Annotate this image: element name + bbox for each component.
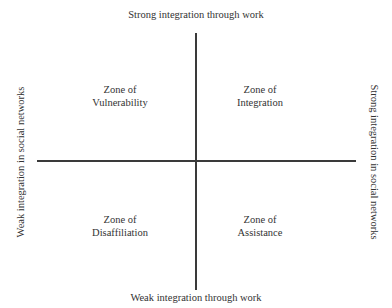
- horizontal-axis-line: [37, 160, 356, 162]
- zone-name: Vulnerability: [60, 96, 180, 109]
- zone-name: Assistance: [200, 226, 320, 239]
- quadrant-zone-vulnerability: Zone of Vulnerability: [60, 83, 180, 109]
- zone-name: Disaffiliation: [60, 226, 180, 239]
- zone-prefix: Zone of: [200, 83, 320, 96]
- zone-prefix: Zone of: [60, 83, 180, 96]
- zone-prefix: Zone of: [60, 213, 180, 226]
- zone-name: Integration: [200, 96, 320, 109]
- axis-label-left: Weak integration in social networks: [15, 87, 26, 238]
- axis-label-top: Strong integration through work: [0, 9, 392, 20]
- zone-prefix: Zone of: [200, 213, 320, 226]
- axis-label-bottom: Weak integration through work: [0, 292, 392, 303]
- axis-label-right: Strong integration in social networks: [369, 84, 380, 239]
- quadrant-zone-integration: Zone of Integration: [200, 83, 320, 109]
- quadrant-zone-disaffiliation: Zone of Disaffiliation: [60, 213, 180, 239]
- quadrant-zone-assistance: Zone of Assistance: [200, 213, 320, 239]
